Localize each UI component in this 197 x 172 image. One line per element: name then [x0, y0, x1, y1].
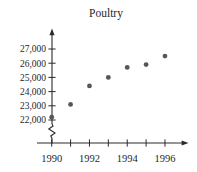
y-tick-label: 24,000 [20, 87, 46, 97]
data-point [125, 65, 130, 70]
data-point [144, 62, 149, 67]
data-point [163, 54, 168, 59]
data-point [68, 102, 73, 107]
y-tick-label: 26,000 [20, 59, 46, 69]
y-tick-label: 27,000 [20, 44, 46, 54]
x-tick-label: 1990 [41, 153, 62, 164]
data-point [106, 75, 111, 80]
chart-title: Poultry [89, 7, 123, 20]
y-ticks-group: 22,00023,00024,00025,00026,00027,000 [20, 44, 56, 125]
x-tick-label: 1992 [79, 153, 100, 164]
x-tick-label: 1996 [154, 153, 175, 164]
y-tick-label: 25,000 [20, 73, 46, 83]
y-tick-label: 22,000 [20, 115, 46, 125]
chart-svg: Poultry 22,00023,00024,00025,00026,00027… [0, 0, 197, 172]
data-point [87, 84, 92, 89]
x-axis-arrow-icon [182, 141, 189, 146]
y-tick-label: 23,000 [20, 101, 46, 111]
data-points-group [49, 54, 167, 120]
data-point [49, 115, 54, 120]
y-axis-arrow-icon [50, 29, 55, 36]
poultry-scatter-chart: Poultry 22,00023,00024,00025,00026,00027… [0, 0, 197, 172]
x-tick-label: 1994 [117, 153, 139, 164]
